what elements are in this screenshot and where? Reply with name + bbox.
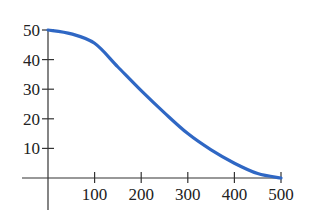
y-tick-label: 30 [23,80,40,99]
x-tick-label: 200 [128,185,154,204]
x-tick-label: 400 [222,185,248,204]
x-tick-label: 100 [82,185,108,204]
y-tick-label: 50 [23,21,40,40]
line-chart: 1020304050 100200300400500 [0,0,309,216]
y-tick-label: 10 [23,139,40,158]
y-tick-label: 40 [23,51,40,70]
x-axis-ticks: 100200300400500 [82,172,294,204]
axes [22,30,281,210]
x-tick-label: 300 [175,185,201,204]
y-tick-label: 20 [23,110,40,129]
data-curve [48,30,281,178]
y-axis-ticks: 1020304050 [23,21,54,158]
x-tick-label: 500 [268,185,294,204]
